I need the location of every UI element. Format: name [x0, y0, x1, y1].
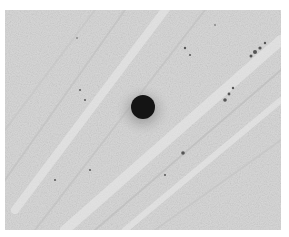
micrograph-image: [5, 10, 281, 230]
micrograph-svg: [5, 10, 281, 230]
dark-spot: [131, 95, 155, 119]
